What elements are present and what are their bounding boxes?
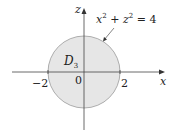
eq-plus: + bbox=[107, 13, 123, 26]
circle-equation: x2 + z2 = 4 bbox=[96, 13, 156, 25]
region-label: D3 bbox=[64, 55, 78, 70]
z-axis-label: z bbox=[75, 4, 81, 15]
eq-equals: = 4 bbox=[133, 13, 156, 26]
z-axis-arrow-icon bbox=[82, 8, 87, 14]
origin-label: 0 bbox=[75, 75, 82, 86]
region-label-main: D bbox=[64, 54, 74, 68]
region-label-subscript: 3 bbox=[74, 62, 78, 70]
diagram-canvas: z x 0 −2 2 D3 x2 + z2 = 4 bbox=[0, 0, 175, 137]
x-axis-arrow-icon bbox=[159, 70, 165, 75]
pointer-arrow-icon bbox=[103, 37, 107, 42]
pointer-line bbox=[104, 28, 114, 40]
tick-label-pos2: 2 bbox=[121, 78, 128, 89]
x-axis-label: x bbox=[160, 76, 166, 87]
tick-label-neg2: −2 bbox=[32, 78, 48, 89]
